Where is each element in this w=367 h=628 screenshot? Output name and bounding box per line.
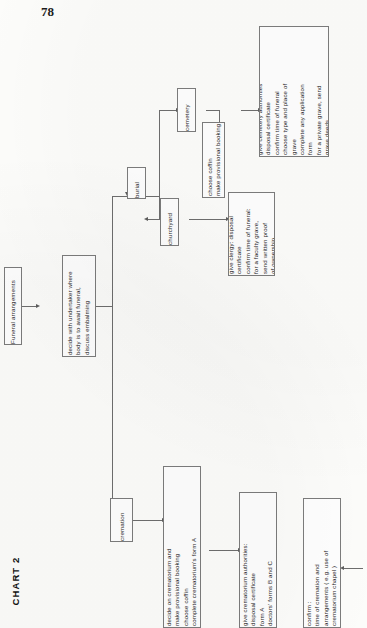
node-label: give cemetery authorities disposal certi… [259,29,329,155]
page-number: 78 [41,4,54,20]
edge-bus-burial [112,196,127,197]
edge-cremation-decide [133,520,163,521]
node-label: confirm : time of cremation and arrangem… [305,500,339,626]
edge-churchyard-clergy [189,219,227,220]
node-label: give clergy: disposal certificate confir… [228,194,275,274]
edge-auth-confirm [343,568,363,569]
node-label: decide on crematorium and make provision… [165,468,199,626]
node-label: churchyard [165,199,173,245]
node-label: choose coffin make provisional booking [205,124,222,196]
node-funeral-arrangements[interactable]: Funeral arrangements [4,267,22,345]
edge-burial-out [146,196,160,197]
edge-coffin-cemetery-auth [241,110,259,111]
edge-bus-vertical [112,196,113,520]
node-cremation[interactable]: cremation [110,498,133,542]
node-label: decide with undertaker where body is to … [66,257,91,355]
edge-cemetery-coffin [206,110,220,111]
node-label: Funeral arrangements [9,268,17,344]
chart-title: CHART 2 [10,540,21,606]
node-give-clergy[interactable]: give clergy: disposal certificate confir… [228,192,275,276]
node-label: burial [132,168,140,198]
edge-to-churchyard [146,219,160,220]
node-label: cremation [117,499,125,541]
edge-undertaker-bus [96,306,113,307]
node-choose-coffin[interactable]: choose coffin make provisional booking [202,122,225,198]
arrowhead [36,304,40,308]
node-give-cemetery-authorities[interactable]: give cemetery authorities disposal certi… [259,26,329,157]
edge-to-cemetery [159,110,177,111]
edge-root-undertaker [22,306,37,307]
node-decide-crematorium[interactable]: decide on crematorium and make provision… [163,466,201,628]
chart-page: 78 CHART 2 Funeral arrangements decide w [0,0,367,628]
edge-decide-auth [209,550,239,551]
node-burial[interactable]: burial [127,167,146,199]
node-confirm-cremation[interactable]: confirm : time of cremation and arrangem… [303,498,341,628]
node-decide-undertaker[interactable]: decide with undertaker where body is to … [62,255,96,357]
node-cemetery[interactable]: cemetery [177,88,196,132]
node-churchyard[interactable]: churchyard [160,198,179,246]
arrowhead [144,217,148,221]
node-label: give crematorium authorities: disposal c… [241,494,275,626]
node-label: cemetery [182,89,190,131]
node-give-crematorium-authorities[interactable]: give crematorium authorities: disposal c… [239,492,277,628]
